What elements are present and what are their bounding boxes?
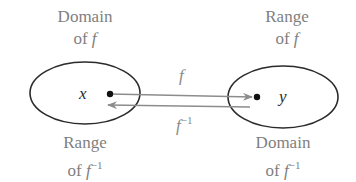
label-line1: Domain bbox=[30, 6, 140, 28]
f-inverse-arrow-label: f−1 bbox=[176, 114, 192, 136]
f-arrow bbox=[110, 94, 252, 97]
element-y-label: y bbox=[279, 87, 287, 107]
point-y bbox=[254, 94, 260, 100]
label-line1: Domain bbox=[228, 132, 338, 154]
f-inverse-arrow bbox=[108, 105, 250, 107]
range-of-f-label: Range of f bbox=[232, 6, 342, 50]
domain-of-f-label: Domain of f bbox=[30, 6, 140, 50]
point-x bbox=[107, 91, 113, 97]
label-line1: Range bbox=[30, 132, 140, 154]
element-x-label: x bbox=[79, 84, 87, 104]
f-arrow-label: f bbox=[179, 66, 184, 86]
label-line2: of f bbox=[232, 28, 342, 50]
label-line1: Range bbox=[232, 6, 342, 28]
label-line2: of f bbox=[30, 28, 140, 50]
label-line2: of f−1 bbox=[30, 154, 140, 182]
domain-of-f-inverse-label: Domain of f−1 bbox=[228, 132, 338, 182]
label-line2: of f−1 bbox=[228, 154, 338, 182]
range-of-f-inverse-label: Range of f−1 bbox=[30, 132, 140, 182]
